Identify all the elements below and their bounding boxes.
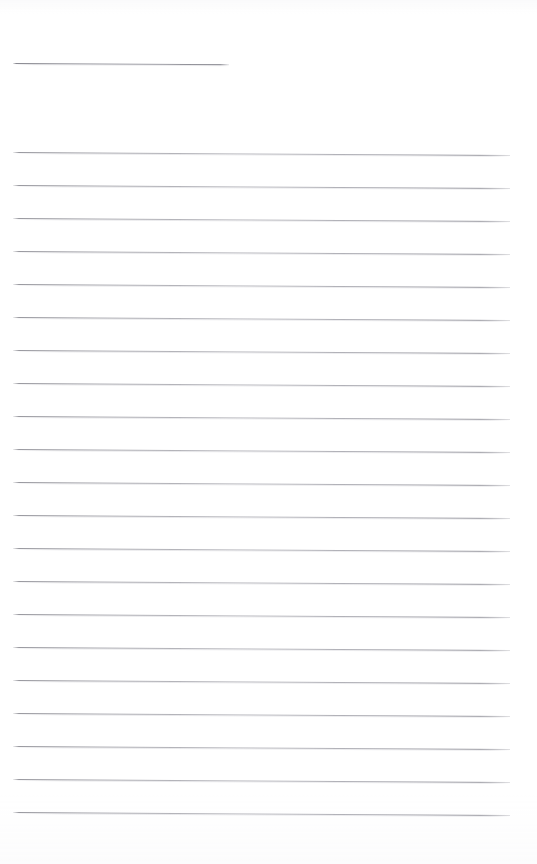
ruled-line: [13, 251, 510, 255]
ruled-line: [13, 284, 510, 288]
ruled-line: [13, 581, 510, 585]
ruled-line: [13, 746, 510, 750]
ruled-line: [13, 680, 510, 684]
ruled-line: [13, 812, 510, 816]
title-rule: [13, 63, 229, 65]
ruled-line: [13, 383, 510, 387]
ruled-line: [13, 449, 510, 453]
ruled-line: [13, 350, 510, 354]
ruled-line: [13, 416, 510, 420]
ruled-line: [13, 713, 510, 717]
lined-paper-page: [0, 0, 537, 864]
ruled-lines-layer: [0, 0, 537, 864]
ruled-line: [13, 614, 510, 618]
ruled-line: [13, 185, 510, 189]
ruled-line: [13, 218, 510, 222]
ruled-line: [13, 779, 510, 783]
ruled-line: [13, 647, 510, 651]
ruled-line: [13, 515, 510, 519]
ruled-line: [13, 548, 510, 552]
ruled-line: [13, 317, 510, 321]
ruled-line: [13, 152, 510, 156]
ruled-line: [13, 482, 510, 486]
